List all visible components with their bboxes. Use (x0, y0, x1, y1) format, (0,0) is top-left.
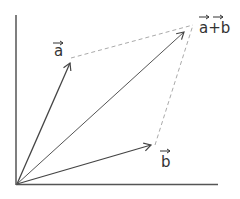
label-a: a (53, 41, 63, 60)
dashed-a-to-sum (71, 25, 193, 58)
label-sum: a+b (199, 15, 230, 37)
vector-diagram: a b a+b (0, 0, 240, 199)
dashed-b-to-sum (155, 25, 193, 145)
label-b-text: b (161, 153, 171, 171)
label-sum-text: a+b (199, 19, 230, 37)
label-a-text: a (54, 42, 63, 60)
vector-sum-arrow (17, 32, 184, 184)
label-b: b (160, 149, 171, 171)
vector-b-arrow (17, 145, 151, 184)
vector-a-arrow (17, 63, 70, 184)
